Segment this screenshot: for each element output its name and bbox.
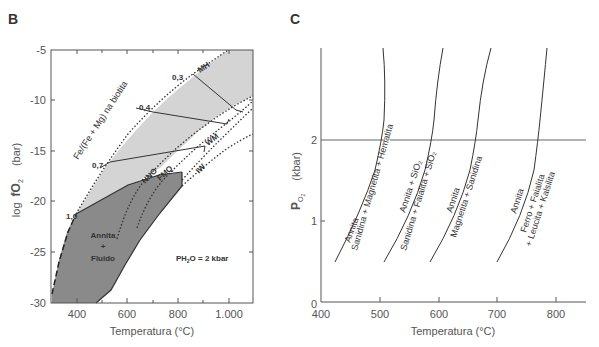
reaction-1-bottom-label: Sanidina + Magnetita + Hematita	[349, 123, 395, 252]
b-x-tick-1000: 1.000	[215, 308, 243, 320]
b-y-tick-neg30: -30	[30, 297, 46, 309]
b-y-tick-neg15: -15	[30, 145, 46, 157]
fluido-label: Fluido	[91, 254, 115, 263]
c-x-tick-800: 800	[547, 308, 565, 320]
panel-c: C 400 500 600 700 800 0 1 2 Temperatura …	[289, 11, 586, 337]
reaction-4-top-label: Annita	[508, 187, 525, 214]
c-y-tick-0: 0	[311, 298, 317, 310]
figure: B	[0, 0, 599, 347]
isopleth-label-0-4: 0,4	[139, 103, 151, 112]
b-x-tick-800: 800	[169, 308, 187, 320]
panel-c-label: C	[290, 11, 300, 27]
panel-b-label: B	[8, 11, 18, 27]
panel-b: B	[8, 11, 253, 337]
c-x-tick-600: 600	[430, 308, 448, 320]
c-y-tick-2: 2	[311, 134, 317, 146]
b-x-axis-label: Temperatura (°C)	[110, 325, 194, 337]
svg-text:log fO2 (bar): log fO2 (bar)	[9, 143, 25, 217]
annita-label: Annita	[91, 231, 116, 240]
b-y-tick-neg10: -10	[30, 94, 46, 106]
plus-label: +	[101, 242, 106, 251]
b-x-tick-600: 600	[118, 308, 136, 320]
c-x-tick-500: 500	[371, 308, 389, 320]
c-y-tick-1: 1	[311, 215, 317, 227]
b-x-tick-400: 400	[68, 308, 86, 320]
isopleth-label-1-0: 1,0	[66, 212, 78, 221]
svg-text:PO2 (kbar): PO2 (kbar)	[289, 152, 307, 210]
b-y-tick-neg20: -20	[30, 195, 46, 207]
c-x-axis-label: Temperatura (°C)	[411, 325, 495, 337]
b-y-tick-neg5: -5	[36, 44, 46, 56]
isopleth-label-0-7: 0,7	[92, 161, 104, 170]
iw-buffer-line	[182, 134, 253, 186]
b-y-axis-label: log fO2 (bar)	[9, 143, 25, 217]
c-y-axis-label: PO2 (kbar)	[289, 152, 307, 210]
wm-label: WM	[204, 132, 221, 148]
isopleth-label-0-3: 0,3	[172, 73, 184, 82]
c-x-tick-700: 700	[488, 308, 506, 320]
ph2o-annotation: PH2O = 2 kbar	[176, 254, 228, 264]
b-y-tick-neg25: -25	[30, 246, 46, 258]
